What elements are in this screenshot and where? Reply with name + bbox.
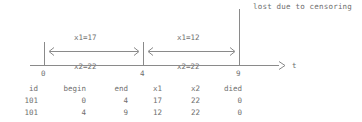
cell-id: 101 [8, 96, 38, 108]
cell-begin: 0 [38, 96, 86, 108]
cell-died: 0 [200, 108, 242, 120]
censoring-marker-rule [239, 9, 240, 65]
cell-begin: 4 [38, 108, 86, 120]
column-header-died: died [200, 84, 242, 96]
cell-x2: 22 [162, 108, 200, 120]
tick-label-0: 0 [41, 69, 46, 78]
cell-died: 0 [200, 96, 242, 108]
column-header-x1: x1 [128, 84, 162, 96]
cell-end: 9 [86, 108, 128, 120]
tick-rule-4 [143, 42, 144, 65]
tick-label-9: 9 [236, 69, 241, 78]
time-axis-label: t [292, 61, 297, 70]
interval-2-x1-label: x1=12 [177, 33, 200, 43]
table-row: 101 4 9 12 22 0 [8, 108, 242, 120]
column-header-id: id [8, 84, 38, 96]
timeline-diagram: lost due to censoring x1=17 x2=22 x1=12 … [0, 0, 362, 122]
time-axis-arrowhead [275, 60, 289, 71]
interval-1-span-arrow [46, 46, 142, 57]
cell-end: 4 [86, 96, 128, 108]
interval-1-x1-label: x1=17 [74, 33, 97, 43]
column-header-x2: x2 [162, 84, 200, 96]
cell-x2: 22 [162, 96, 200, 108]
time-axis-line [30, 65, 279, 66]
cell-id: 101 [8, 108, 38, 120]
tick-label-4: 4 [140, 69, 145, 78]
table-header-row: id begin end x1 x2 died [8, 84, 242, 96]
column-header-end: end [86, 84, 128, 96]
cell-x1: 17 [128, 96, 162, 108]
cell-x1: 12 [128, 108, 162, 120]
data-table: id begin end x1 x2 died 101 0 4 17 22 0 … [8, 84, 242, 120]
censoring-note-label: lost due to censoring [253, 2, 352, 11]
tick-rule-0 [44, 42, 45, 65]
interval-2-span-arrow [145, 46, 238, 57]
table-row: 101 0 4 17 22 0 [8, 96, 242, 108]
interval-2-x2-label: x2=22 [177, 62, 200, 72]
column-header-begin: begin [38, 84, 86, 96]
interval-1-x2-label: x2=22 [74, 62, 97, 72]
